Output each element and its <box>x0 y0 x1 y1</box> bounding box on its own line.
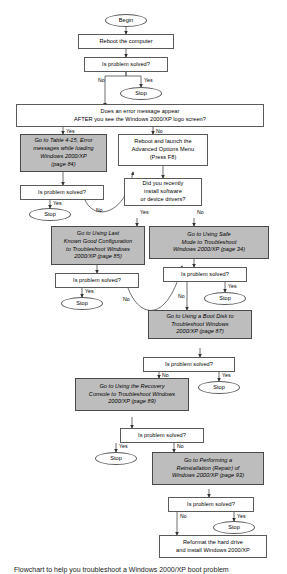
node-recent-install-question-label: Did you recently install software or dev… <box>127 180 199 204</box>
node-stop-5: Stop <box>198 381 240 394</box>
node-goto-last-known-good-label: Go to Using Last Known Good Configuratio… <box>54 230 142 262</box>
edge-label-no-1: No <box>98 77 105 83</box>
edge-label-yes-3: Yes <box>85 288 94 294</box>
node-is-problem-solved-4-label: Is problem solved? <box>166 271 244 279</box>
node-stop-6-label: Stop <box>98 455 134 463</box>
node-is-problem-solved-6-label: Is problem solved? <box>123 432 201 440</box>
node-is-problem-solved-7-label: Is problem solved? <box>171 501 251 509</box>
node-goto-reinstallation-label: Go to Performing a Reinstallation (Repai… <box>155 457 261 481</box>
node-stop-1: Stop <box>120 87 162 100</box>
node-stop-4-label: Stop <box>207 295 243 303</box>
figure-caption: Flowchart to help you troubleshoot a Win… <box>14 565 274 574</box>
node-reboot-computer: Reboot the computer <box>78 34 174 49</box>
node-stop-3: Stop <box>61 297 103 310</box>
edge-label-no-recent: No <box>197 209 204 215</box>
edge-label-yes-5: Yes <box>222 372 231 378</box>
node-stop-2-label: Stop <box>32 211 68 219</box>
node-recent-install-question: Did you recently install software or dev… <box>124 178 202 206</box>
node-begin-label: Begin <box>108 17 144 25</box>
node-goto-table-4-15: Go to Table 4-15, Error messages while l… <box>20 134 107 172</box>
node-error-message-question-label: Does an error message appear AFTER you s… <box>19 108 261 124</box>
edge-label-yes-6: Yes <box>119 443 128 449</box>
flowchart-figure: Begin Reboot the computer Is problem sol… <box>0 0 287 574</box>
edge-label-yes-4: Yes <box>228 283 237 289</box>
node-goto-boot-disk: Go to Using a Boot Disk to Troubleshoot … <box>148 310 252 339</box>
node-is-problem-solved-2-label: Is problem solved? <box>23 189 101 197</box>
node-stop-1-label: Stop <box>123 90 159 98</box>
node-goto-safe-mode: Go to Using Safe Mode to Troubleshoot Wi… <box>149 226 269 259</box>
node-goto-reinstallation: Go to Performing a Reinstallation (Repai… <box>152 452 264 485</box>
node-reformat-hard-drive-label: Reformat the hard drive and install Wind… <box>162 539 264 555</box>
edge-label-no-7: No <box>180 513 187 519</box>
node-is-problem-solved-6: Is problem solved? <box>120 428 204 443</box>
node-goto-last-known-good: Go to Using Last Known Good Configuratio… <box>51 226 145 265</box>
edge-label-no-3: No <box>123 296 130 302</box>
node-stop-3-label: Stop <box>64 300 100 308</box>
node-is-problem-solved-3: Is problem solved? <box>55 273 139 288</box>
edge-label-yes-7: Yes <box>237 513 246 519</box>
edge-label-yes-2: Yes <box>53 200 62 206</box>
node-reformat-hard-drive: Reformat the hard drive and install Wind… <box>159 535 267 558</box>
node-is-problem-solved-2: Is problem solved? <box>20 185 104 200</box>
node-begin: Begin <box>105 14 147 27</box>
node-is-problem-solved-5: Is problem solved? <box>143 357 235 372</box>
edge-label-yes-1: Yes <box>144 77 153 83</box>
node-advanced-options-menu: Reboot and launch the Advanced Options M… <box>118 134 208 166</box>
node-is-problem-solved-3-label: Is problem solved? <box>58 277 136 285</box>
node-goto-recovery-console: Go to Using the Recovery Console to Trou… <box>75 378 189 411</box>
node-advanced-options-menu-label: Reboot and launch the Advanced Options M… <box>121 138 205 162</box>
edge-label-no-2: No <box>96 207 103 213</box>
node-reboot-computer-label: Reboot the computer <box>81 38 171 46</box>
node-goto-table-4-15-label: Go to Table 4-15, Error messages while l… <box>23 137 104 169</box>
node-error-message-question: Does an error message appear AFTER you s… <box>16 104 264 127</box>
node-stop-2: Stop <box>29 208 71 221</box>
node-goto-safe-mode-label: Go to Using Safe Mode to Troubleshoot Wi… <box>152 231 266 255</box>
node-goto-recovery-console-label: Go to Using the Recovery Console to Trou… <box>78 383 186 407</box>
node-stop-5-label: Stop <box>201 384 237 392</box>
node-is-problem-solved-5-label: Is problem solved? <box>146 361 232 369</box>
node-is-problem-solved-4: Is problem solved? <box>163 267 247 282</box>
node-stop-6: Stop <box>95 452 137 465</box>
node-goto-boot-disk-label: Go to Using a Boot Disk to Troubleshoot … <box>151 313 249 337</box>
node-is-problem-solved-1-label: Is problem solved? <box>87 61 165 69</box>
edge-label-no-4: No <box>178 293 185 299</box>
edge-label-yes-recent: Yes <box>140 209 149 215</box>
edge-label-no-6: No <box>177 443 184 449</box>
node-stop-7-label: Stop <box>216 524 252 532</box>
node-is-problem-solved-1: Is problem solved? <box>84 57 168 72</box>
node-stop-4: Stop <box>204 292 246 305</box>
node-is-problem-solved-7: Is problem solved? <box>168 497 254 512</box>
node-stop-7: Stop <box>213 521 255 534</box>
